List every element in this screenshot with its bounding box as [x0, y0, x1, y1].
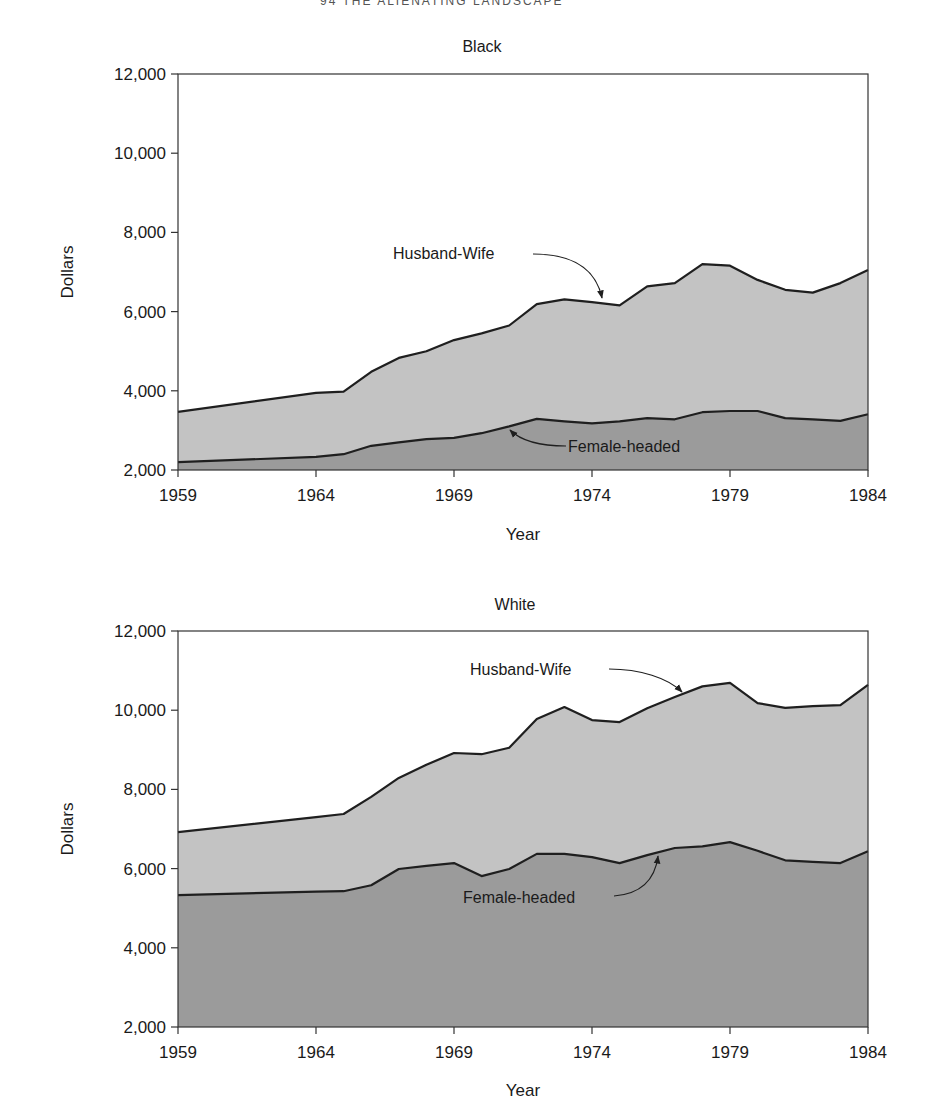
x-tick-label: 1974	[573, 486, 611, 505]
y-axis-ticks: 2,0004,0006,0008,00010,00012,000	[114, 622, 178, 1037]
chart-panel-black: Black 2,0004,0006,0008,00010,00012,000 1…	[58, 38, 887, 544]
y-tick-label: 4,000	[123, 382, 166, 401]
y-axis-ticks: 2,0004,0006,0008,00010,00012,000	[114, 65, 178, 480]
y-tick-label: 10,000	[114, 144, 166, 163]
y-tick-label: 12,000	[114, 622, 166, 641]
x-tick-label: 1979	[711, 486, 749, 505]
x-axis-ticks: 195919641969197419791984	[159, 470, 887, 505]
x-tick-label: 1984	[849, 486, 887, 505]
x-tick-label: 1969	[435, 486, 473, 505]
y-tick-label: 2,000	[123, 1018, 166, 1037]
annotation-arrow-husband-wife	[609, 669, 682, 692]
chart-panel-white: White 2,0004,0006,0008,00010,00012,000 1…	[58, 596, 887, 1100]
chart-title: Black	[462, 38, 502, 55]
x-tick-label: 1964	[297, 1043, 335, 1062]
annotation-husband-wife: Husband-Wife	[470, 661, 571, 678]
x-tick-label: 1959	[159, 1043, 197, 1062]
y-tick-label: 8,000	[123, 780, 166, 799]
y-axis-title: Dollars	[58, 246, 77, 299]
y-tick-label: 6,000	[123, 303, 166, 322]
figure-canvas: Black 2,0004,0006,0008,00010,00012,000 1…	[0, 0, 931, 1108]
x-tick-label: 1984	[849, 1043, 887, 1062]
annotation-husband-wife: Husband-Wife	[393, 245, 494, 262]
y-tick-label: 4,000	[123, 939, 166, 958]
x-axis-title: Year	[506, 1081, 541, 1100]
x-axis-ticks: 195919641969197419791984	[159, 1027, 887, 1062]
x-tick-label: 1974	[573, 1043, 611, 1062]
x-tick-label: 1979	[711, 1043, 749, 1062]
x-axis-title: Year	[506, 525, 541, 544]
y-tick-label: 6,000	[123, 860, 166, 879]
annotation-arrow-husband-wife	[533, 254, 602, 298]
x-tick-label: 1959	[159, 486, 197, 505]
x-tick-label: 1964	[297, 486, 335, 505]
y-tick-label: 12,000	[114, 65, 166, 84]
chart-title: White	[495, 596, 536, 613]
y-tick-label: 10,000	[114, 701, 166, 720]
y-tick-label: 8,000	[123, 223, 166, 242]
x-tick-label: 1969	[435, 1043, 473, 1062]
annotation-female-headed: Female-headed	[568, 438, 680, 455]
annotation-female-headed: Female-headed	[463, 889, 575, 906]
y-axis-title: Dollars	[58, 803, 77, 856]
y-tick-label: 2,000	[123, 461, 166, 480]
